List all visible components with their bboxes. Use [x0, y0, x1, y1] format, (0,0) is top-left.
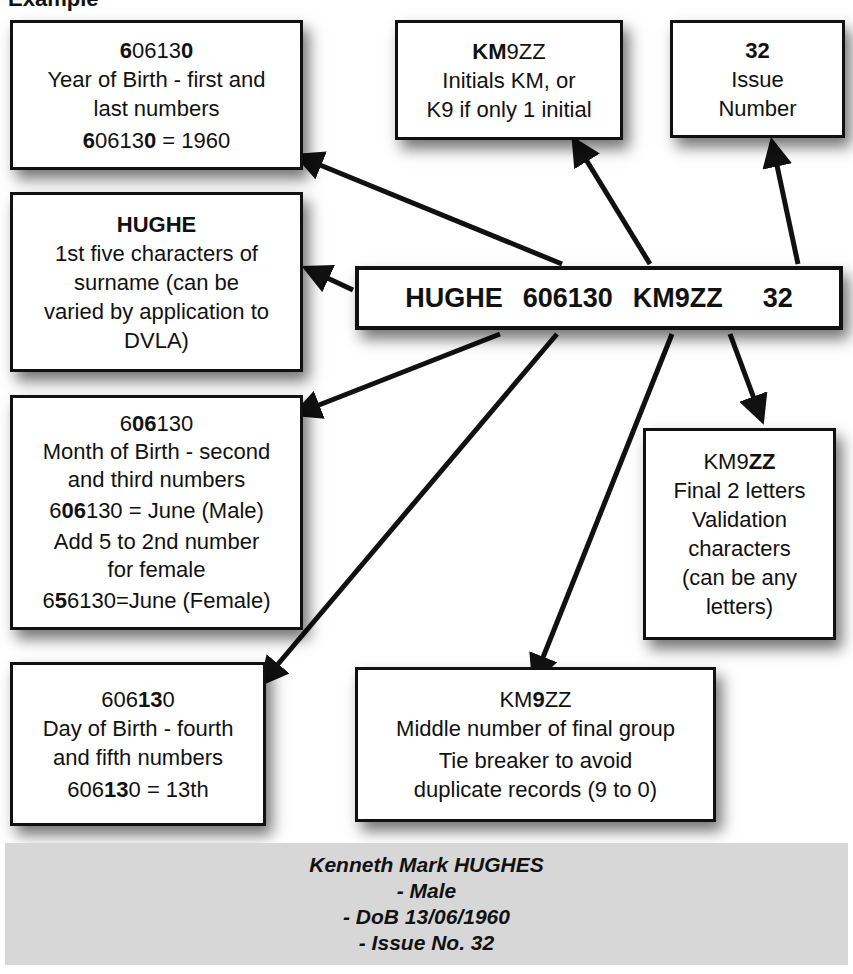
licence-issue: 32: [763, 283, 793, 314]
day-of-birth-box: 606130 Day of Birth - fourth and fifth n…: [10, 662, 266, 826]
month-example-male: 606130 = June (Male): [19, 497, 294, 525]
tiebreaker-code: KM9ZZ: [364, 685, 707, 714]
summary-dob: - DoB 13/06/1960: [5, 904, 848, 930]
year-code: 606130: [19, 36, 294, 65]
year-desc-2: last numbers: [19, 94, 294, 123]
arrow-to-surname: [306, 268, 353, 290]
surname-desc-2: surname (can be: [19, 268, 294, 297]
licence-initials: KM9ZZ: [633, 283, 723, 314]
arrow-to-year: [298, 156, 562, 264]
tie-breaker-box: KM9ZZ Middle number of final group Tie b…: [355, 667, 716, 822]
arrow-to-day: [262, 334, 557, 683]
month-desc-2: and third numbers: [19, 466, 294, 494]
year-example: 606130 = 1960: [19, 126, 294, 155]
validation-desc-5: letters): [652, 592, 827, 621]
licence-dob: 606130: [523, 283, 613, 314]
arrow-to-month: [296, 334, 500, 414]
summary-panel: Kenneth Mark HUGHES - Male - DoB 13/06/1…: [5, 843, 848, 965]
issue-desc-2: Number: [679, 94, 836, 123]
surname-desc-3: varied by application to: [19, 297, 294, 326]
issue-desc-1: Issue: [679, 65, 836, 94]
month-code: 606130: [19, 410, 294, 438]
arrow-to-initials: [574, 140, 650, 264]
issue-number-box: 32 Issue Number: [670, 20, 845, 138]
initials-desc-2: K9 if only 1 initial: [404, 95, 614, 124]
surname-box: HUGHE 1st five characters of surname (ca…: [10, 192, 303, 372]
validation-desc-2: Validation: [652, 505, 827, 534]
day-desc-1: Day of Birth - fourth: [19, 714, 257, 743]
month-female-desc-2: for female: [19, 556, 294, 584]
initials-box: KM9ZZ Initials KM, or K9 if only 1 initi…: [395, 20, 623, 140]
surname-desc-1: 1st five characters of: [19, 239, 294, 268]
arrow-to-issue: [772, 142, 798, 264]
validation-desc-1: Final 2 letters: [652, 476, 827, 505]
licence-number-box: HUGHE 606130 KM9ZZ 32: [355, 266, 843, 330]
summary-issue: - Issue No. 32: [5, 930, 848, 956]
initials-desc-1: Initials KM, or: [404, 66, 614, 95]
summary-gender: - Male: [5, 878, 848, 904]
initials-code: KM9ZZ: [404, 37, 614, 66]
validation-desc-4: (can be any: [652, 563, 827, 592]
day-example: 606130 = 13th: [19, 775, 257, 804]
validation-code: KM9ZZ: [652, 447, 827, 476]
validation-desc-3: characters: [652, 534, 827, 563]
diagram-heading: Example: [8, 0, 99, 12]
summary-name: Kenneth Mark HUGHES: [5, 852, 848, 878]
year-desc-1: Year of Birth - first and: [19, 65, 294, 94]
issue-code: 32: [679, 36, 836, 65]
month-example-female: 656130=June (Female): [19, 587, 294, 615]
surname-code: HUGHE: [19, 210, 294, 239]
licence-surname: HUGHE: [405, 283, 503, 314]
year-of-birth-box: 606130 Year of Birth - first and last nu…: [10, 20, 303, 170]
tiebreaker-desc-2: Tie breaker to avoid: [364, 746, 707, 775]
month-female-desc-1: Add 5 to 2nd number: [19, 528, 294, 556]
day-desc-2: and fifth numbers: [19, 743, 257, 772]
arrow-to-validation: [730, 334, 762, 420]
validation-characters-box: KM9ZZ Final 2 letters Validation charact…: [643, 428, 836, 640]
month-desc-1: Month of Birth - second: [19, 438, 294, 466]
tiebreaker-desc-1: Middle number of final group: [364, 714, 707, 743]
tiebreaker-desc-3: duplicate records (9 to 0): [364, 775, 707, 804]
month-of-birth-box: 606130 Month of Birth - second and third…: [10, 395, 303, 630]
surname-desc-4: DVLA): [19, 326, 294, 355]
day-code: 606130: [19, 685, 257, 714]
